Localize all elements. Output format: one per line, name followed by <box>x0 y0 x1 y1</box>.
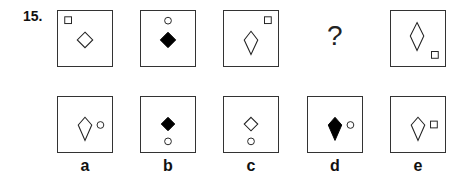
small-square-icon <box>65 17 72 24</box>
small-square-icon <box>431 121 438 128</box>
rhombus-outline-icon <box>410 23 424 51</box>
kite-filled-icon <box>328 117 342 140</box>
option-a-label[interactable]: a <box>57 157 113 175</box>
option-b-label[interactable]: b <box>140 157 196 175</box>
option-c-figure[interactable] <box>223 96 279 153</box>
sequence-figure-1 <box>57 10 113 67</box>
question-number: 15. <box>23 8 42 24</box>
option-d-figure[interactable] <box>307 96 363 153</box>
kite-outline-icon <box>244 31 258 54</box>
sequence-figure-3 <box>223 10 279 67</box>
option-a-figure[interactable] <box>57 96 113 153</box>
option-d-label[interactable]: d <box>307 157 363 175</box>
diamond-filled-icon <box>161 117 175 131</box>
small-circle-icon <box>347 122 354 129</box>
small-circle-icon <box>97 122 104 129</box>
small-square-icon <box>432 52 439 59</box>
option-c-label[interactable]: c <box>223 157 279 175</box>
diamond-filled-icon <box>160 32 175 47</box>
kite-outline-icon <box>411 117 425 140</box>
option-e-label[interactable]: e <box>390 157 446 175</box>
small-circle-icon <box>165 17 172 24</box>
missing-figure-question-mark: ? <box>327 20 343 52</box>
sequence-figure-5 <box>390 10 446 67</box>
diamond-outline-icon <box>77 32 92 47</box>
small-circle-icon <box>165 138 172 145</box>
diamond-outline-icon <box>244 117 258 131</box>
sequence-figure-2 <box>140 10 196 67</box>
small-circle-icon <box>248 138 255 145</box>
small-square-icon <box>265 17 272 24</box>
option-e-figure[interactable] <box>390 96 446 153</box>
option-b-figure[interactable] <box>140 96 196 153</box>
kite-outline-icon <box>78 117 92 140</box>
